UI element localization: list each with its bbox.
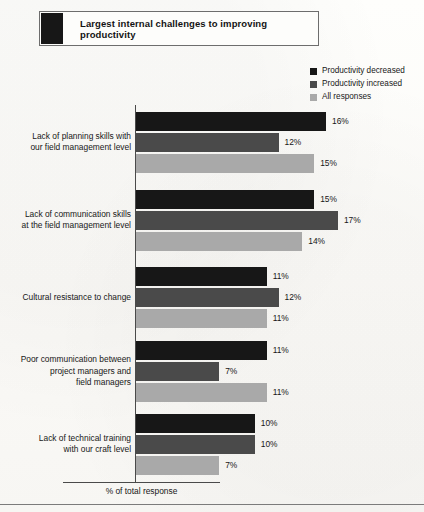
category-label: Lack of communication skillsat the field…: [5, 209, 131, 232]
category-label-line: with our craft level: [5, 444, 131, 456]
category-label-line: Lack of communication skills: [5, 209, 131, 221]
bar-value-label: 7%: [225, 366, 237, 376]
bar-value-label: 11%: [273, 345, 289, 355]
category-label: Lack of planning skills withour field ma…: [5, 131, 131, 154]
bar: [136, 112, 326, 131]
bar-value-label: 10%: [261, 439, 278, 449]
bar: [136, 288, 279, 307]
bar-value-label: 12%: [285, 292, 302, 302]
bar: [136, 267, 267, 286]
bar: [136, 232, 302, 251]
category-label-line: at the field management level: [5, 220, 131, 232]
bar: [136, 435, 255, 454]
bar-value-label: 15%: [320, 194, 337, 204]
category-label: Poor communication betweenproject manage…: [5, 354, 131, 389]
chart-page: Largest internal challenges to improving…: [0, 0, 424, 512]
bar-value-label: 11%: [273, 387, 289, 397]
category-label-line: Lack of planning skills with: [5, 131, 131, 143]
bar: [136, 414, 255, 433]
bar-value-label: 11%: [273, 271, 289, 281]
bar: [136, 309, 267, 328]
bar: [136, 154, 314, 173]
bar: [136, 190, 314, 209]
category-label: Lack of technical trainingwith our craft…: [5, 433, 131, 456]
bar: [136, 456, 219, 475]
category-label-line: our field management level: [5, 142, 131, 154]
bar-value-label: 10%: [261, 418, 278, 428]
bar-value-label: 15%: [320, 158, 337, 168]
category-label-line: Poor communication between: [5, 354, 131, 366]
bar-value-label: 12%: [285, 137, 302, 147]
bar-value-label: 16%: [332, 116, 349, 126]
bar-value-label: 17%: [344, 215, 361, 225]
bar-value-label: 14%: [308, 236, 325, 246]
x-axis-line: [63, 482, 220, 483]
category-label-line: project managers and: [5, 366, 131, 378]
page-bottom-rule: [0, 504, 424, 505]
bar-value-label: 11%: [273, 313, 289, 323]
bar: [136, 341, 267, 360]
bar: [136, 133, 279, 152]
category-label: Cultural resistance to change: [5, 292, 131, 304]
bar-value-label: 7%: [225, 460, 237, 470]
bar: [136, 362, 219, 381]
category-label-line: Lack of technical training: [5, 433, 131, 445]
category-label-line: field managers: [5, 377, 131, 389]
bar: [136, 383, 267, 402]
category-label-line: Cultural resistance to change: [5, 292, 131, 304]
x-axis-label: % of total response: [63, 486, 220, 496]
chart-plot-area: % of total response Lack of planning ski…: [0, 0, 424, 512]
bar: [136, 211, 338, 230]
